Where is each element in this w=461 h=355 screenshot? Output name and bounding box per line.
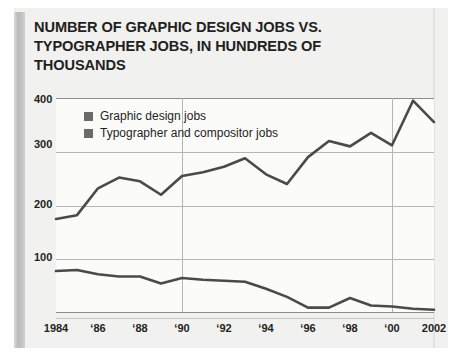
legend-swatch-icon bbox=[84, 129, 93, 138]
series-line-typographer bbox=[56, 270, 434, 310]
x-tick-1998: ‘98 bbox=[342, 322, 357, 334]
x-tick-2002: 2002 bbox=[422, 322, 446, 334]
x-axis-labels: 1984‘86‘88‘90‘92‘94‘96‘98‘002002 bbox=[56, 322, 434, 340]
legend-item-graphic-design: Graphic design jobs bbox=[84, 108, 278, 124]
x-tick-1996: ‘96 bbox=[300, 322, 315, 334]
y-tick-400: 400 bbox=[34, 93, 52, 105]
x-tick-1992: ‘92 bbox=[216, 322, 231, 334]
x-tick-1984: 1984 bbox=[44, 322, 68, 334]
legend-item-typographer: Typographer and compositor jobs bbox=[84, 125, 278, 141]
x-tick-1986: ‘86 bbox=[90, 322, 105, 334]
bottom-rule bbox=[56, 318, 434, 319]
y-tick-200: 200 bbox=[34, 198, 52, 210]
x-tick-1994: ‘94 bbox=[258, 322, 273, 334]
legend-label: Typographer and compositor jobs bbox=[100, 126, 278, 140]
legend-label: Graphic design jobs bbox=[100, 109, 206, 123]
legend-swatch-icon bbox=[84, 112, 93, 121]
chart-legend: Graphic design jobs Typographer and comp… bbox=[84, 108, 278, 142]
chart-title: NUMBER OF GRAPHIC DESIGN JOBS VS. TYPOGR… bbox=[34, 18, 414, 75]
y-tick-300: 300 bbox=[34, 138, 52, 150]
y-tick-100: 100 bbox=[34, 251, 52, 263]
chart-page: NUMBER OF GRAPHIC DESIGN JOBS VS. TYPOGR… bbox=[0, 0, 461, 355]
x-tick-1988: ‘88 bbox=[132, 322, 147, 334]
x-tick-2000: ‘00 bbox=[384, 322, 399, 334]
card-spine bbox=[14, 12, 25, 348]
x-tick-1990: ‘90 bbox=[174, 322, 189, 334]
